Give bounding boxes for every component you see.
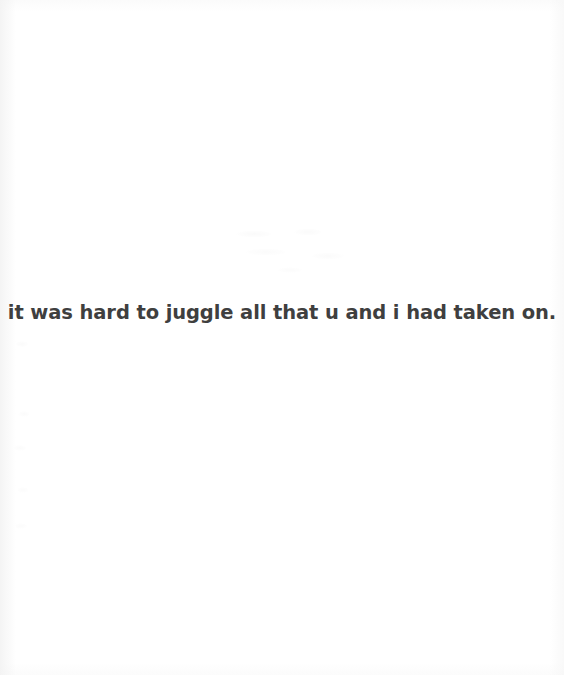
reverse-side-bleed-through [232,222,382,280]
reverse-side-bleed-through-left [14,330,42,540]
book-page: it was hard to juggle all that u and i h… [0,0,564,675]
page-edge-shading [0,0,564,675]
poem-line: it was hard to juggle all that u and i h… [0,301,564,325]
